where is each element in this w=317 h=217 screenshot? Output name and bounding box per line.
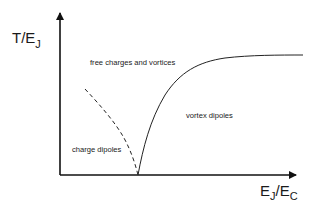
- region-label-charge-dipoles: charge dipoles: [72, 145, 122, 154]
- region-label-free-charges: free charges and vortices: [90, 58, 175, 67]
- charge-boundary-curve: [85, 89, 138, 175]
- x-axis-label: EJ/EC: [260, 182, 298, 202]
- region-label-vortex-dipoles: vortex dipoles: [186, 111, 233, 120]
- y-axis-label: T/EJ: [12, 29, 41, 50]
- phase-diagram: T/EJ EJ/EC free charges and vortices vor…: [0, 0, 317, 217]
